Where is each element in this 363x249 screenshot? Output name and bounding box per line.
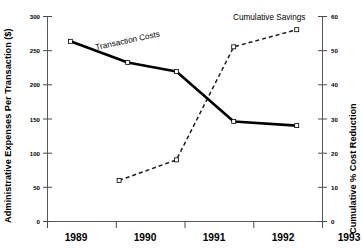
y-right-tick-30: 30 xyxy=(331,116,338,123)
y-left-tick-250: 250 xyxy=(30,47,41,54)
dual-axis-line-chart: Administrative Expenses Per Transaction … xyxy=(0,0,363,249)
y-right-tick-40: 40 xyxy=(331,81,338,88)
data-point-marker xyxy=(174,158,178,162)
cumulative-savings-label: Cumulative Savings xyxy=(233,13,305,22)
y-right-axis-title: Cumulative % Cost Reduction xyxy=(348,103,358,234)
x-tick-1993: 1993 xyxy=(338,232,361,243)
y-right-tick-20: 20 xyxy=(331,150,338,157)
y-left-tick-100: 100 xyxy=(30,150,41,157)
data-point-marker xyxy=(174,69,178,73)
data-point-marker xyxy=(295,124,299,128)
y-left-tick-200: 200 xyxy=(30,81,41,88)
y-right-tick-50: 50 xyxy=(331,47,338,54)
y-right-tick-60: 60 xyxy=(331,13,338,20)
x-tick-1991: 1991 xyxy=(203,232,226,243)
data-point-marker xyxy=(68,39,72,43)
data-point-marker xyxy=(232,119,236,123)
y-left-tick-50: 50 xyxy=(33,184,40,191)
x-tick-1992: 1992 xyxy=(272,232,295,243)
chart-container: Administrative Expenses Per Transaction … xyxy=(0,0,363,249)
y-left-axis-title: Administrative Expenses Per Transaction … xyxy=(3,28,13,223)
chart-background xyxy=(0,0,363,249)
data-point-marker xyxy=(126,61,130,65)
x-tick-1990: 1990 xyxy=(134,232,157,243)
data-point-marker xyxy=(232,45,236,49)
data-point-marker xyxy=(117,178,121,182)
y-right-tick-10: 10 xyxy=(331,184,338,191)
y-left-tick-300: 300 xyxy=(30,13,41,20)
x-tick-1989: 1989 xyxy=(65,232,88,243)
y-left-tick-150: 150 xyxy=(30,116,41,123)
data-point-marker xyxy=(295,28,299,32)
